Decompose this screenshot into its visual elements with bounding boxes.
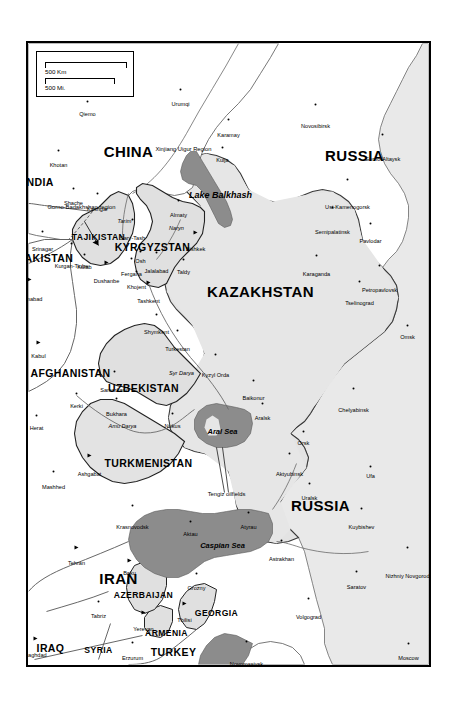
city-marker <box>288 452 291 455</box>
city-label: Shache <box>64 200 83 206</box>
city-marker <box>97 600 100 603</box>
city-marker <box>407 642 410 645</box>
city-label: Semipalatinsk <box>315 230 350 236</box>
city-label: Turkestan <box>165 347 190 353</box>
city-label: Aktau <box>183 532 197 538</box>
city-label: Nukus <box>165 424 181 430</box>
city-marker <box>115 397 118 400</box>
city-label: Dushanbe <box>94 278 120 284</box>
city-label: Tbilisi <box>177 618 191 624</box>
city-label: Tselinograd <box>345 301 374 307</box>
region-label: Xinjiang Uigur Region <box>155 147 211 153</box>
city-marker <box>155 251 158 254</box>
city-label: Erzurum <box>122 656 143 662</box>
city-label: Sary-Tash <box>120 236 145 242</box>
city-label: Chelyabinsk <box>338 408 368 414</box>
city-marker <box>315 254 318 257</box>
map-label-layer: RUSSIARUSSIAKAZAKHSTANCHINAIRANUZBEKISTA… <box>29 44 429 665</box>
country-label: AZERBAIJAN <box>114 591 173 600</box>
city-marker <box>221 146 224 149</box>
city-label: Pavlodar <box>359 238 381 244</box>
city-label: Saratov <box>347 585 366 591</box>
city-label: Gorno-Altaysk <box>365 157 400 163</box>
city-marker <box>252 379 255 382</box>
capital-marker <box>194 231 198 235</box>
city-label: Orsk <box>298 441 310 447</box>
water-label: Lake Balkhash <box>189 191 252 200</box>
city-label: Fergana <box>121 272 142 278</box>
city-label: Taldy <box>177 270 190 276</box>
country-label: AFGHANISTAN <box>30 368 110 379</box>
city-label: Kyzyl Orda <box>202 372 229 378</box>
capital-marker <box>142 611 146 615</box>
country-label: TAJIKISTAN <box>72 233 125 242</box>
city-marker <box>131 218 134 221</box>
city-label: Baghdad <box>26 653 47 659</box>
city-label: Kerki <box>70 404 83 410</box>
water-label: Aral Sea <box>207 428 237 436</box>
city-label: Ufa <box>366 474 375 480</box>
city-label: Bukhara <box>106 412 127 418</box>
city-label: Kabul <box>31 354 45 360</box>
city-marker <box>41 230 44 233</box>
city-label: Astrakhan <box>269 557 294 563</box>
city-marker <box>352 387 355 390</box>
city-marker <box>195 572 198 575</box>
city-marker <box>86 100 89 103</box>
capital-marker <box>75 546 79 550</box>
city-label: Mashhed <box>42 485 65 491</box>
city-label: Baikonur <box>242 395 264 401</box>
capital-marker <box>34 637 38 641</box>
city-label: Urumqi <box>171 101 189 107</box>
city-marker <box>113 370 116 373</box>
city-marker <box>131 504 134 507</box>
country-label: TURKEY <box>151 647 197 658</box>
capital-marker <box>88 454 92 458</box>
city-marker <box>346 178 349 181</box>
city-label: Jalalabad <box>145 269 169 275</box>
river-label: Tarim <box>118 219 132 225</box>
city-marker <box>308 482 311 485</box>
city-marker <box>72 187 75 190</box>
river-label: Syr Darya <box>169 371 194 377</box>
city-marker <box>355 570 358 573</box>
city-label: Herat <box>30 426 44 432</box>
region-label: Tengiz oilfields <box>208 492 246 498</box>
city-label: Krasnovodsk <box>116 525 148 531</box>
country-label: TURKMENISTAN <box>104 458 192 469</box>
city-label: Shymkent <box>144 329 169 335</box>
city-marker <box>83 253 86 256</box>
city-label: Kulja <box>216 158 228 164</box>
city-marker <box>302 430 305 433</box>
city-marker <box>360 507 363 510</box>
city-label: Atyrau <box>240 524 256 530</box>
city-marker <box>70 242 73 245</box>
city-marker <box>52 470 55 473</box>
city-label: Kashgar <box>87 207 108 213</box>
map-page: RUSSIARUSSIAKAZAKHSTANCHINAIRANUZBEKISTA… <box>0 0 457 707</box>
country-label: GEORGIA <box>195 609 238 618</box>
city-marker <box>369 222 372 225</box>
city-label: Aralsk <box>255 415 271 421</box>
city-marker <box>177 199 180 202</box>
river-label: Naryn <box>169 226 184 232</box>
capital-marker <box>147 281 151 285</box>
city-label: Grozny <box>187 585 205 591</box>
city-label: Yerevan <box>133 627 153 633</box>
city-marker <box>75 392 78 395</box>
city-label: Tashkent <box>137 298 159 304</box>
city-marker <box>261 402 264 405</box>
city-marker <box>314 103 317 106</box>
capital-marker <box>128 559 132 563</box>
country-label: KAZAKHSTAN <box>207 284 314 299</box>
city-label: Almaty <box>170 212 187 218</box>
capital-marker <box>183 602 187 606</box>
country-label: KYRGYZSTAN <box>115 242 191 253</box>
city-label: Osh <box>135 259 145 265</box>
city-label: Petropavlovsk <box>362 288 397 294</box>
country-label: RUSSIA <box>291 498 350 513</box>
city-label: Volgograd <box>296 615 321 621</box>
city-marker <box>406 324 409 327</box>
map-rotation-stage: RUSSIARUSSIAKAZAKHSTANCHINAIRANUZBEKISTA… <box>29 44 429 665</box>
scale-km-label: 500 Km <box>45 68 66 75</box>
